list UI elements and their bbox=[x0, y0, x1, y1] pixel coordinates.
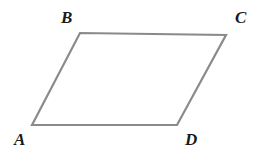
parallelogram-shape bbox=[0, 0, 272, 155]
figure-canvas: A B C D bbox=[0, 0, 272, 155]
parallelogram-outline bbox=[32, 33, 226, 125]
vertex-label-c: C bbox=[235, 9, 246, 26]
vertex-label-d: D bbox=[185, 131, 197, 148]
vertex-label-b: B bbox=[61, 9, 72, 26]
vertex-label-a: A bbox=[14, 131, 25, 148]
